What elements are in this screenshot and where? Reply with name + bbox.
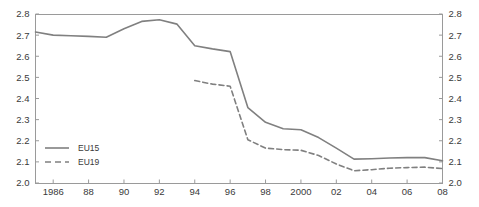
chart-figure: 2.02.12.22.32.42.52.62.72.8 2.02.12.22.3… (0, 0, 479, 207)
x-axis-tick-label: 96 (225, 186, 236, 197)
y-axis-left-tick-label: 2.1 (16, 156, 29, 167)
x-axis-tick-label: 90 (119, 186, 130, 197)
y-axis-right-tick-label: 2.3 (449, 114, 462, 125)
x-axis-tick-label: 06 (402, 186, 413, 197)
x-axis-tick-label: 04 (366, 186, 377, 197)
y-axis-left-labels: 2.02.12.22.32.42.52.62.72.8 (16, 8, 29, 188)
y-axis-right-tick-label: 2.7 (449, 30, 462, 41)
y-axis-left-tick-label: 2.0 (16, 177, 29, 188)
y-axis-left-tick-label: 2.3 (16, 114, 29, 125)
chart-background (0, 0, 479, 207)
y-axis-right-tick-label: 2.6 (449, 51, 462, 62)
y-axis-left-tick-label: 2.7 (16, 30, 29, 41)
x-axis-tick-label: 1986 (43, 186, 64, 197)
y-axis-right-tick-label: 2.4 (449, 93, 462, 104)
legend-label-eu15: EU15 (78, 143, 100, 153)
x-axis-tick-label: 88 (83, 186, 94, 197)
y-axis-right-tick-label: 2.8 (449, 8, 462, 19)
y-axis-left-tick-label: 2.8 (16, 8, 29, 19)
y-axis-right-tick-label: 2.0 (449, 177, 462, 188)
y-axis-right-tick-label: 2.2 (449, 135, 462, 146)
y-axis-right-labels: 2.02.12.22.32.42.52.62.72.8 (449, 8, 462, 188)
legend-label-eu19: EU19 (78, 157, 100, 167)
x-axis-tick-label: 08 (437, 186, 448, 197)
y-axis-left-tick-label: 2.2 (16, 135, 29, 146)
x-axis-tick-label: 94 (189, 186, 200, 197)
x-axis-tick-label: 92 (154, 186, 165, 197)
x-axis-tick-label: 02 (331, 186, 342, 197)
y-axis-left-tick-label: 2.6 (16, 51, 29, 62)
x-axis-tick-label: 2000 (290, 186, 311, 197)
y-axis-left-tick-label: 2.4 (16, 93, 29, 104)
x-axis-tick-label: 98 (260, 186, 271, 197)
y-axis-right-tick-label: 2.5 (449, 72, 462, 83)
line-chart: 2.02.12.22.32.42.52.62.72.8 2.02.12.22.3… (0, 0, 479, 207)
y-axis-right-tick-label: 2.1 (449, 156, 462, 167)
y-axis-left-tick-label: 2.5 (16, 72, 29, 83)
